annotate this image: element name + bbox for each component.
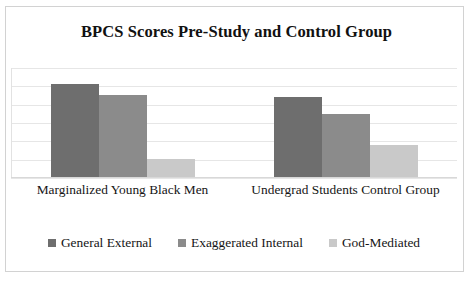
plot-area [11, 68, 457, 178]
legend-label-0: General External [61, 235, 152, 251]
legend-item-1[interactable]: Exaggerated Internal [178, 235, 303, 251]
legend-label-1: Exaggerated Internal [191, 235, 303, 251]
bar-0-1 [99, 95, 147, 178]
legend-item-2[interactable]: God-Mediated [329, 235, 420, 251]
bar-1-2 [370, 145, 418, 177]
bar-0-0 [51, 84, 99, 178]
legend-swatch-icon-2 [329, 239, 337, 247]
bar-1-1 [322, 114, 370, 177]
bar-0-2 [147, 159, 195, 177]
legend-label-2: God-Mediated [342, 235, 420, 251]
category-axis-labels: Marginalized Young Black Men Undergrad S… [11, 182, 457, 226]
legend-item-0[interactable]: General External [48, 235, 152, 251]
chart-title: BPCS Scores Pre-Study and Control Group [0, 22, 473, 42]
gridline-0 [11, 178, 457, 179]
chart-legend: General ExternalExaggerated InternalGod-… [11, 232, 457, 254]
bars-layer [11, 68, 457, 178]
bar-1-0 [274, 97, 322, 177]
category-label-1: Undergrad Students Control Group [234, 182, 457, 198]
chart-container: BPCS Scores Pre-Study and Control Group … [0, 0, 473, 281]
legend-swatch-icon-1 [178, 239, 186, 247]
category-label-0: Marginalized Young Black Men [11, 182, 234, 198]
legend-swatch-icon-0 [48, 239, 56, 247]
